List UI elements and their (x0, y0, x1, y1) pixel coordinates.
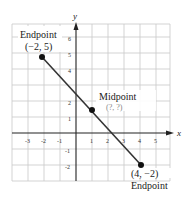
x-tick: 5 (154, 138, 157, 144)
coordinate-plane: x y -3 -2 -1 1 2 3 4 5 6 5 4 2 1 -1 -2 E… (0, 0, 190, 204)
y-tick: -2 (65, 164, 70, 170)
endpoint2-coords: (4, −2) (131, 168, 158, 180)
endpoint2-title: Endpoint (131, 180, 168, 191)
x-tick: -2 (41, 138, 46, 144)
y-tick: 4 (68, 68, 71, 74)
x-tick: 3 (122, 138, 125, 144)
midpoint-title: Midpoint (99, 91, 136, 102)
y-tick: -1 (65, 148, 70, 154)
y-axis-label: y (72, 11, 77, 21)
endpoint1-dot (39, 54, 45, 60)
x-tick: 1 (90, 138, 93, 144)
endpoint1-title: Endpoint (20, 29, 57, 40)
midpoint-dot (89, 107, 95, 113)
y-tick: 1 (68, 116, 71, 122)
midpoint-coords: (?, ?) (106, 103, 123, 112)
x-tick: -3 (25, 138, 30, 144)
x-tick-labels: -3 -2 -1 1 2 3 4 5 (25, 138, 157, 144)
x-axis-label: x (176, 128, 181, 138)
y-axis-arrow-icon (74, 22, 79, 30)
y-tick: 2 (68, 100, 71, 106)
x-tick: 4 (138, 138, 141, 144)
endpoint1-coords: (−2, 5) (25, 41, 52, 53)
x-tick: 2 (106, 138, 109, 144)
x-tick: -1 (57, 138, 62, 144)
y-tick: 5 (68, 52, 71, 58)
y-tick-labels: 6 5 4 2 1 -1 -2 (65, 36, 71, 170)
y-tick: 6 (68, 36, 71, 42)
